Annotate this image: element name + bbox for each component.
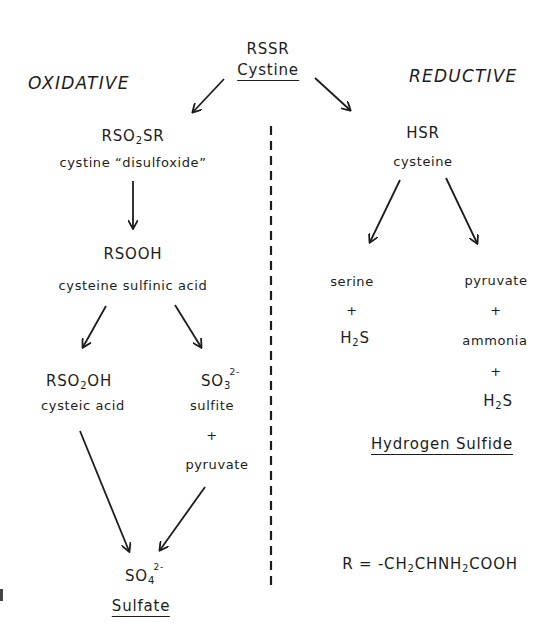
sulfinic-name: cysteine sulfinic acid	[59, 278, 208, 294]
pyruvate-h2s: H2S	[483, 393, 513, 409]
cystine-name-wrap: Cystine	[237, 62, 299, 78]
sulfate-name-wrap: Sulfate	[112, 598, 170, 614]
sulfite-coproduct-pyruvate: pyruvate	[185, 457, 248, 473]
arrow-cysteine-to-pyruvate	[446, 178, 477, 243]
hydrogen-sulfide-name: Hydrogen Sulfide	[371, 435, 513, 455]
cysteine-name: cysteine	[393, 154, 452, 170]
disulfoxide-formula: RSO2SR	[102, 128, 165, 144]
cysteine-formula: HSR	[406, 125, 440, 141]
arrow-cysteine-to-serine	[370, 180, 400, 242]
sulfate-name: Sulfate	[112, 597, 170, 617]
hydrogen-sulfide-wrap: Hydrogen Sulfide	[371, 436, 513, 452]
ammonia-label: ammonia	[462, 333, 527, 349]
pyruvate-plus-2: +	[490, 364, 502, 380]
arrow-sulfite-to-sulfate	[160, 487, 205, 550]
sulfate-formula: SO42-	[125, 568, 155, 584]
serine-label: serine	[330, 274, 374, 290]
sulfite-plus: +	[206, 428, 218, 444]
heading-reductive: REDUCTIVE	[409, 66, 518, 86]
pyruvate-label: pyruvate	[464, 273, 527, 289]
cystine-formula: RSSR	[246, 41, 289, 57]
arrow-cystine-to-disulfoxide	[193, 79, 224, 112]
serine-h2s: H2S	[340, 330, 370, 346]
diagram-lines	[0, 0, 554, 643]
sulfinic-formula: RSOOH	[104, 246, 163, 262]
scan-edge-mark	[0, 589, 3, 601]
serine-plus: +	[346, 303, 358, 319]
arrow-sulfinic-to-cysteic	[83, 306, 106, 347]
cysteic-formula: RSO2OH	[46, 373, 112, 389]
sulfite-formula: SO32-	[201, 373, 231, 389]
r-group-definition: R = -CH2CHNH2COOH	[342, 556, 518, 572]
cystine-name: Cystine	[237, 61, 299, 81]
heading-oxidative: OXIDATIVE	[28, 73, 130, 93]
sulfite-name: sulfite	[190, 398, 234, 414]
cysteic-name: cysteic acid	[41, 398, 125, 414]
disulfoxide-name: cystine “disulfoxide”	[60, 155, 207, 171]
arrow-cysteic-to-sulfate	[80, 431, 129, 551]
arrow-cystine-to-cysteine	[315, 78, 350, 110]
pyruvate-plus-1: +	[490, 303, 502, 319]
arrow-sulfinic-to-sulfite	[175, 305, 201, 347]
